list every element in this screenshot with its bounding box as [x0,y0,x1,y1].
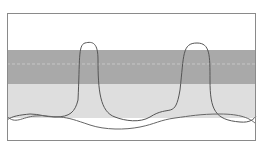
upper-band [7,50,256,84]
diagram-svg [0,0,266,148]
diagram-canvas [0,0,266,148]
lower-band [7,84,256,118]
